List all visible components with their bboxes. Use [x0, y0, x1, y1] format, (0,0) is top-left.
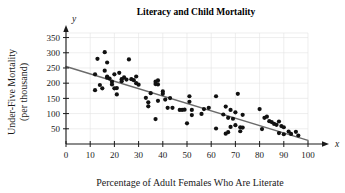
- data-point: [228, 108, 232, 112]
- y-axis-label-line2: (per thousand): [18, 63, 30, 121]
- data-point: [170, 106, 174, 110]
- data-point: [120, 79, 124, 83]
- data-point: [146, 104, 150, 108]
- data-point: [238, 129, 242, 133]
- data-point: [115, 92, 119, 96]
- data-point: [214, 126, 218, 130]
- data-point: [105, 60, 109, 64]
- data-point: [277, 119, 281, 123]
- data-point: [144, 96, 148, 100]
- data-point: [289, 132, 293, 136]
- data-point: [93, 72, 97, 76]
- y-tick-label: 200: [47, 78, 61, 88]
- data-point: [115, 86, 119, 90]
- y-tick-label: 300: [47, 48, 61, 58]
- data-point: [241, 125, 245, 129]
- chart-figure: Literacy and Child Mortality 50100150200…: [0, 0, 345, 193]
- data-points: [93, 50, 300, 138]
- x-tick-label: 80: [255, 150, 265, 160]
- chart-title-group: Literacy and Child Mortality: [137, 7, 256, 17]
- data-point: [190, 108, 194, 112]
- data-point: [233, 123, 237, 127]
- x-tick-label: 90: [279, 150, 289, 160]
- x-tick-label: 30: [134, 150, 144, 160]
- y-axis-label-group: Under-Five Mortality (per thousand): [6, 49, 30, 135]
- data-point: [117, 71, 121, 75]
- data-point: [221, 112, 225, 116]
- data-point: [202, 107, 206, 111]
- data-point: [124, 77, 128, 81]
- data-point: [110, 82, 114, 86]
- y-tick-label: 250: [47, 63, 61, 73]
- data-point: [265, 115, 269, 119]
- data-point: [134, 74, 138, 78]
- data-point: [282, 125, 286, 129]
- data-point: [224, 104, 228, 108]
- y-tick-label: 50: [51, 124, 61, 134]
- x-tick-label: 60: [207, 150, 217, 160]
- data-point: [228, 125, 232, 129]
- data-point: [226, 130, 230, 134]
- data-point: [187, 94, 191, 98]
- data-point: [100, 86, 104, 90]
- x-tick-label: 10: [86, 150, 96, 160]
- x-tick-label: 100: [301, 150, 315, 160]
- data-point: [98, 83, 102, 87]
- data-point: [156, 99, 160, 103]
- data-point: [233, 110, 237, 114]
- data-point: [153, 117, 157, 121]
- data-point: [137, 83, 141, 87]
- y-tick-label: 350: [47, 33, 61, 43]
- data-point: [296, 133, 300, 137]
- x-tick-label: 0: [64, 150, 69, 160]
- axes: [63, 25, 329, 147]
- data-point: [112, 72, 116, 76]
- y-tick-label: 100: [47, 109, 61, 119]
- y-axis-symbol: y: [71, 14, 77, 24]
- data-point: [185, 121, 189, 125]
- data-point: [146, 100, 150, 104]
- data-point: [182, 108, 186, 112]
- x-tick-label: 70: [231, 150, 241, 160]
- data-point: [241, 113, 245, 117]
- data-point: [214, 94, 218, 98]
- data-point: [149, 91, 153, 95]
- data-point: [127, 57, 131, 61]
- data-point: [103, 69, 107, 73]
- data-point: [282, 132, 286, 136]
- x-axis-label: Percentage of Adult Females Who Are Lite…: [96, 177, 284, 188]
- data-point: [103, 50, 107, 54]
- y-axis-label-line1: Under-Five Mortality: [6, 49, 17, 135]
- data-point: [207, 106, 211, 110]
- x-tick-label: 40: [158, 150, 168, 160]
- data-point: [260, 127, 264, 131]
- data-point: [190, 113, 194, 117]
- data-point: [93, 88, 97, 92]
- data-point: [274, 123, 278, 127]
- y-tick-label: 150: [47, 94, 61, 104]
- x-axis-symbol: x: [334, 139, 340, 149]
- data-point: [168, 96, 172, 100]
- x-tick-label: 50: [183, 150, 193, 160]
- data-point: [294, 130, 298, 134]
- data-point: [161, 92, 165, 96]
- data-point: [226, 116, 230, 120]
- data-point: [231, 117, 235, 121]
- x-axis-arrow: [322, 141, 329, 146]
- data-point: [163, 98, 167, 102]
- data-point: [236, 92, 240, 96]
- data-point: [258, 107, 262, 111]
- data-point: [166, 106, 170, 110]
- data-point: [156, 78, 160, 82]
- data-point: [199, 112, 203, 116]
- data-point: [187, 100, 191, 104]
- chart-title: Literacy and Child Mortality: [137, 7, 256, 17]
- data-point: [156, 82, 160, 86]
- x-tick-label: 20: [110, 150, 120, 160]
- scatter-plot-svg: Literacy and Child Mortality 50100150200…: [0, 0, 345, 193]
- data-point: [277, 131, 281, 135]
- y-axis-arrow: [63, 25, 68, 32]
- data-point: [95, 57, 99, 61]
